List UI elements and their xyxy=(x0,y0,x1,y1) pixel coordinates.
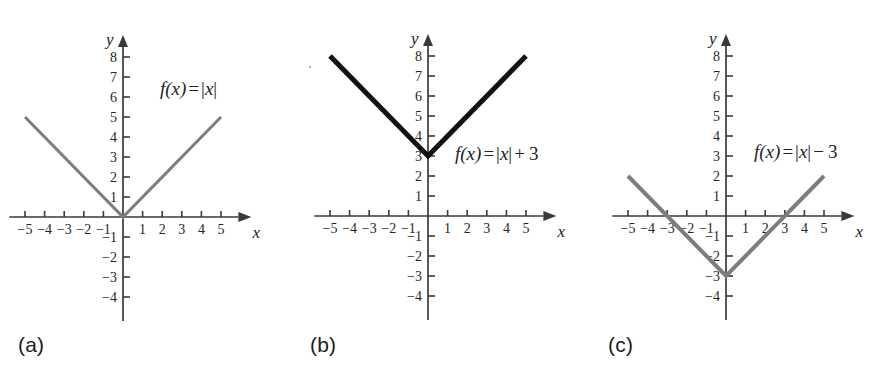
y-tick-label: 8 xyxy=(415,49,422,64)
x-tick-label: −5 xyxy=(18,222,33,237)
y-tick-label: 7 xyxy=(713,69,720,84)
x-tick-label: −3 xyxy=(57,222,72,237)
y-axis-label: y xyxy=(409,29,419,48)
x-tick-label: 2 xyxy=(464,221,471,236)
coordinate-plane-a: −5−4−3−2−112345−4−3−2−112345678xy xyxy=(0,0,293,379)
panel-caption-b: (b) xyxy=(310,333,336,357)
x-tick-label: −3 xyxy=(362,221,377,236)
coordinate-plane-c: −5−4−3−2−112345−4−3−2−112345678xy xyxy=(586,0,879,379)
chart-panel-a: −5−4−3−2−112345−4−3−2−112345678xyf(x)=|x… xyxy=(0,0,293,379)
y-tick-label: −2 xyxy=(102,250,117,265)
x-tick-label: −2 xyxy=(381,221,396,236)
y-tick-label: −3 xyxy=(102,270,117,285)
x-tick-label: 3 xyxy=(781,221,788,236)
y-tick-label: −1 xyxy=(102,230,117,245)
chart-panel-b: −5−4−3−2−112345−4−3−2−112345678xyf(x)=|x… xyxy=(290,0,583,379)
x-tick-label: 5 xyxy=(523,221,530,236)
x-axis-label: x xyxy=(251,223,260,242)
y-axis-arrowhead xyxy=(423,34,433,46)
y-tick-label: 2 xyxy=(713,169,720,184)
y-tick-label: 2 xyxy=(415,169,422,184)
y-tick-label: −3 xyxy=(705,269,720,284)
y-tick-label: 5 xyxy=(110,110,117,125)
y-axis-arrowhead xyxy=(118,35,128,47)
panel-caption-c: (c) xyxy=(608,333,633,357)
y-axis-label: y xyxy=(104,30,114,49)
y-tick-label: 3 xyxy=(713,149,720,164)
panel-caption-a: (a) xyxy=(18,333,44,357)
x-tick-label: −4 xyxy=(640,221,655,236)
x-tick-label: 1 xyxy=(139,222,146,237)
x-tick-label: 5 xyxy=(821,221,828,236)
y-tick-label: 1 xyxy=(713,189,720,204)
x-tick-label: 1 xyxy=(742,221,749,236)
y-tick-label: 8 xyxy=(110,50,117,65)
x-tick-label: 5 xyxy=(218,222,225,237)
y-tick-label: −3 xyxy=(407,269,422,284)
x-tick-label: −5 xyxy=(323,221,338,236)
x-tick-label: −5 xyxy=(621,221,636,236)
x-tick-label: 3 xyxy=(178,222,185,237)
equation-label-a: f(x)=|x| xyxy=(160,78,217,100)
x-tick-label: 3 xyxy=(483,221,490,236)
y-tick-label: 5 xyxy=(713,109,720,124)
x-tick-label: 4 xyxy=(198,222,205,237)
y-tick-label: −2 xyxy=(407,249,422,264)
y-tick-label: 4 xyxy=(713,129,720,144)
figure-absolute-value-graphs: −5−4−3−2−112345−4−3−2−112345678xyf(x)=|x… xyxy=(0,0,879,379)
y-tick-label: 6 xyxy=(110,90,117,105)
y-tick-label: 6 xyxy=(713,89,720,104)
x-axis-label: x xyxy=(854,222,863,241)
y-tick-label: 8 xyxy=(713,49,720,64)
coordinate-plane-b: −5−4−3−2−112345−4−3−2−112345678xy xyxy=(290,0,583,379)
x-tick-label: 1 xyxy=(444,221,451,236)
y-tick-label: 1 xyxy=(415,189,422,204)
equation-label-b: f(x)=|x|+3 xyxy=(455,143,540,165)
x-axis-arrowhead xyxy=(841,211,854,221)
x-axis-label: x xyxy=(556,222,565,241)
x-tick-label: −2 xyxy=(76,222,91,237)
y-axis-arrowhead xyxy=(721,34,731,46)
x-tick-label: 4 xyxy=(503,221,510,236)
y-tick-label: −4 xyxy=(705,289,720,304)
equation-label-c: f(x)=|x|−3 xyxy=(754,141,839,163)
y-tick-label: 3 xyxy=(110,150,117,165)
x-tick-label: −4 xyxy=(342,221,357,236)
y-tick-label: 7 xyxy=(110,70,117,85)
y-tick-label: −4 xyxy=(102,290,117,305)
y-tick-label: 2 xyxy=(110,170,117,185)
x-axis-arrowhead xyxy=(238,212,251,222)
y-tick-label: −4 xyxy=(407,289,422,304)
y-tick-label: 5 xyxy=(415,109,422,124)
y-tick-label: −1 xyxy=(705,229,720,244)
x-tick-label: 4 xyxy=(801,221,808,236)
y-tick-label: −1 xyxy=(407,229,422,244)
y-axis-label: y xyxy=(707,29,717,48)
y-tick-label: 4 xyxy=(110,130,117,145)
x-axis-arrowhead xyxy=(543,211,556,221)
chart-panel-c: −5−4−3−2−112345−4−3−2−112345678xyf(x)=|x… xyxy=(586,0,879,379)
x-tick-label: 2 xyxy=(159,222,166,237)
y-tick-label: 6 xyxy=(415,89,422,104)
y-tick-label: 7 xyxy=(415,69,422,84)
x-tick-label: −4 xyxy=(37,222,52,237)
